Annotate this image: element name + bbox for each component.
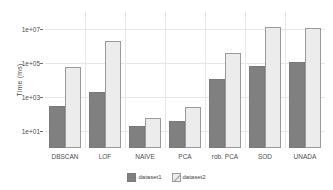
x-axis: DBSCANLOFNAIVEPCArob. PCASODUNADA (45, 152, 325, 166)
bar-dataset2-lof (105, 41, 121, 148)
bar-dataset1-naive (129, 126, 145, 148)
y-tick-label-1: 1e+03 (20, 94, 40, 101)
bar-dataset2-unada (305, 28, 321, 148)
bar-dataset1-pca (169, 121, 185, 148)
bar-dataset2-pca (185, 107, 201, 148)
bar-group-rob-pca (205, 12, 245, 148)
x-tick-label-rob-pca: rob. PCA (212, 152, 238, 161)
bar-dataset2-sod (265, 27, 281, 148)
y-tick-mark-3 (40, 29, 43, 30)
x-tick-label-pca: PCA (178, 152, 191, 161)
plot-area (45, 12, 325, 148)
bar-group-lof (85, 12, 125, 148)
x-tick-label-sod: SOD (258, 152, 272, 161)
bar-dataset1-rob-pca (209, 79, 225, 148)
legend-swatch-dataset2 (172, 173, 181, 182)
bar-dataset2-dbscan (65, 67, 81, 148)
legend-item-dataset1[interactable]: dataset1 (127, 173, 161, 182)
x-tick-label-lof: LOF (99, 152, 112, 161)
y-tick-label-2: 1e+05 (20, 60, 40, 67)
x-tick-label-unada: UNADA (294, 152, 317, 161)
y-tick-mark-1 (40, 97, 43, 98)
legend-item-dataset2[interactable]: dataset2 (172, 173, 206, 182)
x-tick-label-dbscan: DBSCAN (51, 152, 78, 161)
y-tick-label-0: 1e+01 (20, 128, 40, 135)
bar-dataset1-lof (89, 92, 105, 148)
bar-dataset1-sod (249, 66, 265, 148)
y-axis: 1e+011e+031e+051e+07 (20, 0, 40, 190)
y-tick-label-3: 1e+07 (20, 26, 40, 33)
bar-group-pca (165, 12, 205, 148)
bar-chart: Time (ms) 1e+011e+031e+051e+07 DBSCANLOF… (0, 0, 333, 190)
bars-layer (45, 12, 325, 148)
bar-dataset1-dbscan (49, 106, 65, 148)
bar-dataset1-unada (289, 62, 305, 148)
bar-group-unada (285, 12, 325, 148)
y-tick-mark-2 (40, 63, 43, 64)
bar-group-sod (245, 12, 285, 148)
legend-swatch-dataset1 (127, 173, 136, 182)
y-tick-mark-0 (40, 131, 43, 132)
bar-dataset2-rob-pca (225, 53, 241, 148)
chart-legend: dataset1dataset2 (0, 170, 333, 184)
bar-dataset2-naive (145, 118, 161, 148)
legend-label-dataset1: dataset1 (138, 173, 161, 182)
x-tick-label-naive: NAIVE (135, 152, 155, 161)
legend-label-dataset2: dataset2 (183, 173, 206, 182)
bar-group-naive (125, 12, 165, 148)
bar-group-dbscan (45, 12, 85, 148)
